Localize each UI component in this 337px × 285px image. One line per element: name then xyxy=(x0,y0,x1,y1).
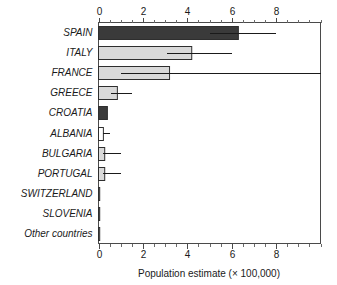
category-label: PORTUGAL xyxy=(38,168,93,179)
population-estimate-bar-chart: 02468 02468 SPAINITALYFRANCEGREECECROATI… xyxy=(0,0,337,285)
category-label: BULGARIA xyxy=(42,148,93,159)
x-tick-label: 2 xyxy=(141,6,147,17)
category-label: SWITZERLAND xyxy=(21,188,93,199)
x-axis-title: Population estimate (× 100,000) xyxy=(138,268,280,279)
x-tick-label: 6 xyxy=(230,249,236,260)
x-tick-label: 0 xyxy=(97,6,103,17)
category-label: FRANCE xyxy=(51,67,92,78)
category-label: SLOVENIA xyxy=(42,208,92,219)
category-label: GREECE xyxy=(50,87,93,98)
bar xyxy=(99,208,100,221)
x-tick-label: 8 xyxy=(274,6,280,17)
x-tick-label: 6 xyxy=(230,6,236,17)
x-tick-label: 0 xyxy=(97,249,103,260)
x-tick-label: 4 xyxy=(185,6,191,17)
bar xyxy=(99,228,100,241)
x-tick-label: 8 xyxy=(274,249,280,260)
category-label: SPAIN xyxy=(63,27,93,38)
category-label: ALBANIA xyxy=(49,128,93,139)
category-label: Other countries xyxy=(24,228,92,239)
chart-background xyxy=(0,0,337,285)
x-tick-label: 2 xyxy=(141,249,147,260)
category-label: CROATIA xyxy=(49,107,93,118)
bar xyxy=(99,107,108,120)
bar xyxy=(99,188,100,201)
bar xyxy=(99,128,104,141)
x-tick-label: 4 xyxy=(185,249,191,260)
category-label: ITALY xyxy=(66,47,93,58)
chart-container: 02468 02468 SPAINITALYFRANCEGREECECROATI… xyxy=(0,0,337,285)
